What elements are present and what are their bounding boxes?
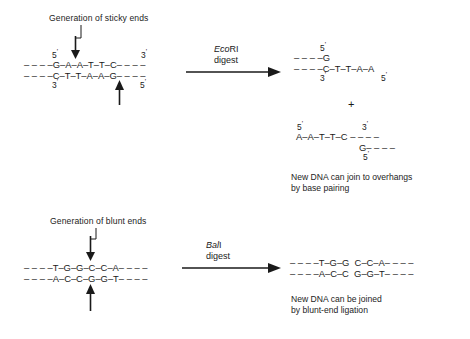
sticky-note-line-1: New DNA can join to overhangs bbox=[291, 172, 412, 184]
sticky-substrate-bottom-right-prime: 5' bbox=[140, 80, 146, 90]
blunt-note-line-2: by blunt-end ligation bbox=[291, 305, 368, 317]
sticky-substrate-top-strand: – – – –G–A–A–T–T–C– – – – bbox=[24, 59, 145, 70]
sticky-substrate-bottom-left-prime: 3' bbox=[52, 80, 58, 90]
blunt-product-bottom-strand: – – – –A–C–C G–G–T– – – – bbox=[290, 268, 414, 279]
blunt-enzyme-genus: Bal bbox=[206, 240, 219, 250]
blunt-product-top-strand: – – – –T–G–G C–C–A– – – – bbox=[290, 257, 414, 268]
sticky-product1-bottom-left-prime: 3' bbox=[320, 73, 326, 83]
blunt-enzyme-action: digest bbox=[206, 251, 230, 261]
sticky-product2-top-strand: A–A–T–T–C – – – – bbox=[296, 131, 379, 142]
sticky-substrate-bottom-strand: – – – –C–T–T–A–A–G– – – – bbox=[24, 70, 145, 81]
sticky-enzyme-roman: RI bbox=[230, 44, 239, 54]
sticky-reaction-arrow-icon bbox=[186, 66, 282, 78]
blunt-substrate-top-strand: – – – –T–G–G–C–C–A– – – – bbox=[24, 262, 148, 273]
blunt-enzyme-label: BalI digest bbox=[206, 240, 230, 262]
blunt-reaction-arrow-icon bbox=[182, 262, 282, 274]
sticky-product1-bottom-right-prime: 5' bbox=[381, 73, 387, 83]
sticky-product1-top-strand: – – – –G bbox=[294, 52, 330, 63]
blunt-enzyme-roman: I bbox=[219, 240, 222, 250]
sticky-bottom-cut-arrow-icon bbox=[114, 79, 125, 105]
blunt-note-line-1: New DNA can be joined bbox=[291, 294, 382, 306]
sticky-enzyme-label: EcoRI digest bbox=[214, 44, 239, 66]
sticky-product2-bottom-right-prime: 5' bbox=[363, 152, 369, 162]
sticky-products-plus-separator: + bbox=[348, 98, 354, 110]
sticky-top-cut-arrow-icon bbox=[70, 36, 81, 60]
sticky-note-line-2: by base pairing bbox=[291, 183, 349, 195]
sticky-product1-bottom-strand: – – – –C–T–T–A–A bbox=[294, 63, 374, 74]
figure-canvas: Generation of sticky ends 5' 3' – – – –G… bbox=[0, 0, 470, 339]
blunt-top-cut-arrow-icon bbox=[85, 236, 96, 262]
sticky-enzyme-action: digest bbox=[214, 55, 238, 65]
blunt-bottom-cut-arrow-icon bbox=[85, 283, 96, 311]
sticky-enzyme-genus: Eco bbox=[214, 44, 230, 54]
sticky-panel-caption: Generation of sticky ends bbox=[49, 13, 148, 23]
blunt-panel-caption: Generation of blunt ends bbox=[50, 216, 147, 226]
